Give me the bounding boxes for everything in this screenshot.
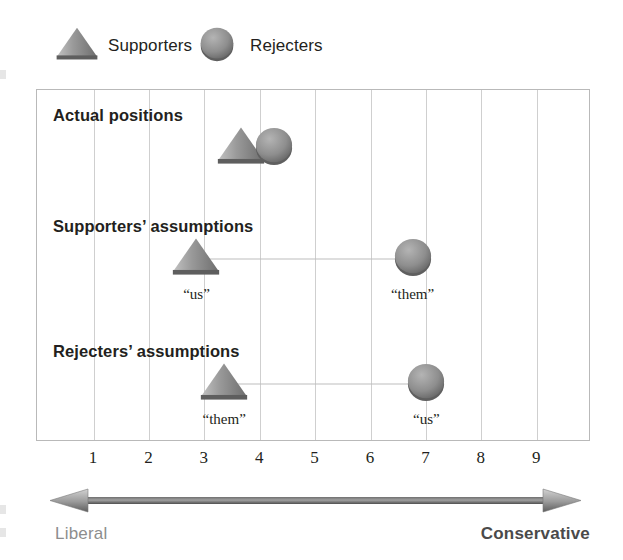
chart-legend: SupportersRejecters [0,0,623,88]
data-point-label: “them” [391,286,434,303]
gridline-5 [315,90,316,440]
data-point-label: “them” [203,411,246,428]
gridline-1 [94,90,95,440]
data-point-label: “us” [413,411,440,428]
data-point-label: “us” [183,286,210,303]
x-tick-1: 1 [89,448,98,468]
row-label: Actual positions [53,106,183,125]
row-label: Rejecters’ assumptions [53,342,240,361]
legend-label: Supporters [108,36,192,56]
x-tick-7: 7 [421,448,430,468]
x-tick-6: 6 [366,448,375,468]
gridline-8 [481,90,482,440]
x-tick-8: 8 [477,448,486,468]
plot-area: Actual positionsSupporters’ assumptions“… [36,89,590,441]
axis-left-label: Liberal [55,524,107,544]
data-point-triangle[interactable] [199,361,249,407]
page-edge-mark [0,528,6,537]
gridline-2 [149,90,150,440]
data-point-triangle[interactable] [171,236,221,282]
x-axis-tick-labels: 123456789 [0,448,623,476]
gridline-9 [537,90,538,440]
page-edge-mark [0,505,6,514]
legend-item-rejecters[interactable]: Rejecters [198,26,323,66]
triangle-icon [55,26,99,66]
data-point-circle[interactable] [392,237,434,281]
x-tick-3: 3 [200,448,209,468]
circle-icon [198,26,236,66]
connector-line [224,384,426,385]
row-label: Supporters’ assumptions [53,217,253,236]
x-tick-5: 5 [310,448,319,468]
gridline-6 [371,90,372,440]
x-tick-4: 4 [255,448,264,468]
x-tick-9: 9 [532,448,541,468]
data-point-circle[interactable] [253,126,295,170]
data-point-circle[interactable] [405,362,447,406]
connector-line [196,259,412,260]
double-headed-arrow-icon [48,488,583,518]
axis-right-label: Conservative [481,524,590,544]
legend-item-supporters[interactable]: Supporters [55,26,192,66]
legend-label: Rejecters [250,36,323,56]
x-tick-2: 2 [144,448,153,468]
